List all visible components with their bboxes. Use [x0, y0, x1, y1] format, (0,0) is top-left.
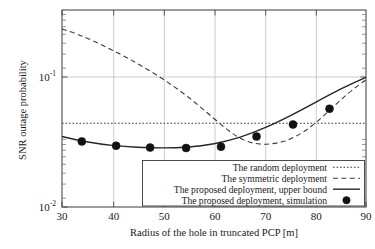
- chart-svg: 30 40 50 60 70 80 90 10-1 10-2 Radius of…: [0, 0, 375, 249]
- x-tick-label: 90: [361, 210, 373, 222]
- x-tick-label: 80: [311, 210, 323, 222]
- data-point-marker: [78, 137, 86, 145]
- legend-label-random-deployment: The random deployment: [233, 162, 328, 173]
- x-tick-label: 40: [108, 210, 120, 222]
- legend-label-symmetric-deployment: The symmetric deployment: [221, 173, 327, 184]
- x-tick-label: 30: [57, 210, 69, 222]
- data-point-marker: [326, 105, 334, 113]
- legend-swatch-marker: [343, 197, 350, 204]
- x-tick-label: 50: [159, 210, 171, 222]
- data-point-marker: [182, 144, 190, 152]
- data-point-marker: [112, 142, 120, 150]
- y-axis-title: SNR outage probability: [17, 59, 28, 159]
- data-point-marker: [289, 121, 297, 129]
- legend-label-proposed-simulation: The proposed deployment, simulation: [182, 195, 328, 206]
- legend-label-proposed-upper-bound: The proposed deployment, upper bound: [174, 184, 327, 195]
- x-axis-title: Radius of the hole in truncated PCP [m]: [130, 227, 298, 238]
- x-tick-label: 70: [260, 210, 272, 222]
- data-point-marker: [217, 143, 225, 151]
- data-point-marker: [146, 144, 154, 152]
- x-tick-label: 60: [210, 210, 222, 222]
- chart-legend: The random deployment The symmetric depl…: [143, 161, 365, 207]
- data-point-marker: [253, 133, 261, 141]
- chart-figure: 30 40 50 60 70 80 90 10-1 10-2 Radius of…: [0, 0, 375, 249]
